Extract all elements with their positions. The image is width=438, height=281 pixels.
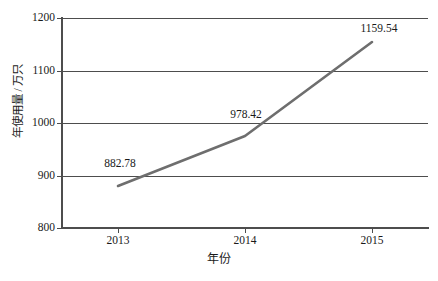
x-tick-2015: [372, 228, 373, 233]
x-tick-2014: [245, 228, 246, 233]
x-tick-2013: [118, 228, 119, 233]
data-label-2014: 978.42: [206, 108, 286, 120]
y-axis-title: 年使用量 / 万只: [9, 31, 27, 171]
gridline-900: [62, 176, 428, 177]
y-tick-1200: [57, 18, 62, 19]
y-tick-label-1200: 1200: [5, 12, 55, 24]
y-tick-1100: [57, 71, 62, 72]
gridline-1000: [62, 123, 428, 124]
line-chart-figure: 1200 1100 1000 900 800 2013 2014 2015 年使…: [0, 0, 438, 281]
y-tick-900: [57, 176, 62, 177]
data-label-2013: 882.78: [80, 157, 160, 169]
y-tick-800: [57, 228, 62, 229]
gridline-1100: [62, 71, 428, 72]
y-tick-1000: [57, 123, 62, 124]
x-tick-label-2013: 2013: [88, 234, 148, 247]
data-label-2015: 1159.54: [339, 22, 419, 34]
x-tick-label-2015: 2015: [342, 234, 402, 247]
y-tick-label-900: 900: [5, 170, 55, 182]
x-axis-title: 年份: [0, 252, 438, 266]
x-tick-label-2014: 2014: [215, 234, 275, 247]
y-tick-label-800: 800: [5, 222, 55, 234]
gridline-1200: [62, 18, 428, 19]
